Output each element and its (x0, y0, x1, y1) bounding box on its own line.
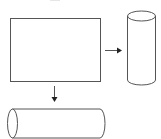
flat-rectangle (11, 19, 101, 82)
vertical-cylinder (128, 11, 156, 85)
arrow-right-icon (105, 48, 122, 54)
rectangle-to-cylinder-diagram (0, 0, 161, 139)
arrow-down-icon (52, 86, 58, 102)
horizontal-cylinder (8, 109, 106, 138)
